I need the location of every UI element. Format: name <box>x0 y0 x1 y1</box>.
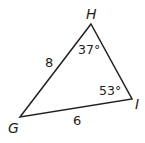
side-label-gh: 8 <box>45 55 53 70</box>
angle-label-h: 37° <box>78 42 100 57</box>
vertex-label-i: I <box>135 96 139 112</box>
angle-label-i: 53° <box>99 83 121 98</box>
vertex-label-g: G <box>8 120 19 136</box>
side-label-gi: 6 <box>73 113 81 128</box>
triangle-diagram: H G I 8 6 37° 53° <box>0 0 145 143</box>
vertex-label-h: H <box>86 6 97 22</box>
triangle-ghi <box>20 24 132 117</box>
